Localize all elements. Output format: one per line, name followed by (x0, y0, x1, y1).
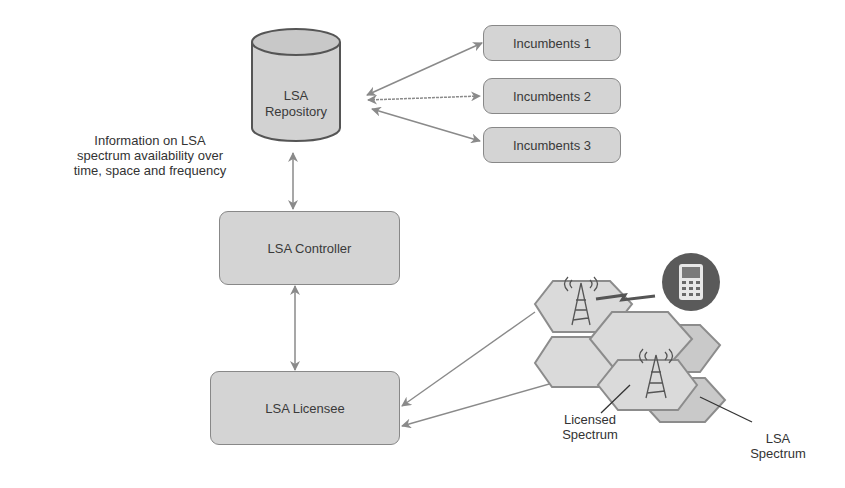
lsa-repository-label: LSA Repository (252, 88, 340, 120)
lsa-repository-cylinder (252, 29, 340, 141)
incumbents-1-label: Incumbents 1 (513, 36, 591, 51)
licensed-spectrum-label: Licensed Spectrum (548, 412, 632, 442)
lsa-controller-label: LSA Controller (268, 241, 352, 256)
repository-label-line: Repository (252, 104, 340, 120)
arrow-cell-licensee-1 (402, 312, 535, 406)
lsa-licensee-label: LSA Licensee (265, 401, 345, 416)
arrow-repo-incumbents-2 (368, 96, 480, 100)
incumbents-3-box: Incumbents 3 (483, 127, 621, 163)
info-note-line: spectrum availability over (52, 148, 248, 163)
info-note-line: time, space and frequency (52, 163, 248, 178)
licensed-spectrum-line: Licensed (548, 412, 632, 427)
licensed-spectrum-line: Spectrum (548, 427, 632, 442)
incumbents-1-box: Incumbents 1 (483, 25, 621, 61)
repository-label-line: LSA (252, 88, 340, 104)
arrow-repo-incumbents-3 (372, 109, 480, 141)
lsa-licensee-box: LSA Licensee (210, 371, 400, 445)
info-note-line: Information on LSA (52, 133, 248, 148)
incumbents-2-label: Incumbents 2 (513, 89, 591, 104)
incumbents-2-box: Incumbents 2 (483, 78, 621, 114)
lsa-controller-box: LSA Controller (219, 211, 400, 285)
lsa-spectrum-line: LSA (738, 431, 818, 446)
diagram-canvas (0, 0, 845, 488)
mobile-phone-icon (662, 253, 720, 311)
lsa-spectrum-line: Spectrum (738, 446, 818, 461)
information-note: Information on LSA spectrum availability… (52, 133, 248, 178)
incumbents-3-label: Incumbents 3 (513, 138, 591, 153)
arrow-repo-incumbents-1 (367, 43, 482, 95)
lsa-spectrum-label: LSA Spectrum (738, 431, 818, 461)
